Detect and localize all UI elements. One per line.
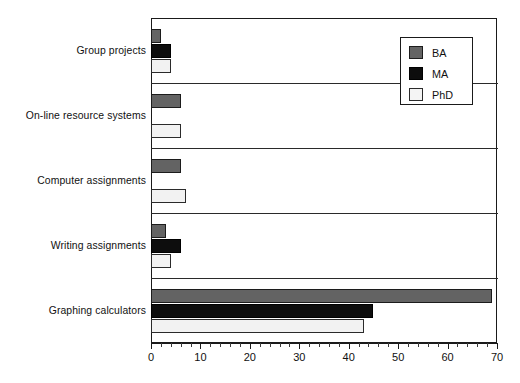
- bar-phd-1: [151, 124, 181, 138]
- x-tick-minor: [329, 343, 330, 347]
- category-label: Computer assignments: [0, 175, 146, 186]
- category-label: Graphing calculators: [0, 305, 146, 316]
- x-tick-minor: [438, 343, 439, 347]
- x-tick-major: [398, 343, 399, 349]
- x-tick-minor: [457, 343, 458, 347]
- x-tick-minor: [418, 343, 419, 347]
- x-tick-minor: [270, 343, 271, 347]
- x-tick-minor: [319, 343, 320, 347]
- bar-ba-3: [151, 224, 166, 238]
- bar-chart: Group projectsOn-line resource systemsCo…: [0, 0, 520, 383]
- legend-swatch-icon: [409, 46, 423, 59]
- legend-entry-ba: BA: [409, 46, 446, 59]
- bar-ma-4: [151, 304, 373, 318]
- legend-entry-ma: MA: [409, 67, 448, 80]
- x-tick-major: [250, 343, 251, 349]
- x-tick-major: [151, 343, 152, 349]
- x-tick-minor: [220, 343, 221, 347]
- x-tick-minor: [359, 343, 360, 347]
- x-tick-label: 10: [194, 351, 206, 363]
- legend-swatch-icon: [409, 88, 423, 101]
- bar-phd-2: [151, 189, 186, 203]
- x-tick-minor: [171, 343, 172, 347]
- x-tick-minor: [467, 343, 468, 347]
- x-tick-minor: [309, 343, 310, 347]
- x-tick-label: 20: [244, 351, 256, 363]
- x-tick-label: 50: [392, 351, 404, 363]
- legend-label: MA: [432, 68, 448, 80]
- bar-phd-0: [151, 59, 171, 73]
- x-tick-minor: [181, 343, 182, 347]
- x-tick-major: [299, 343, 300, 349]
- bar-ma-3: [151, 239, 181, 253]
- x-tick-minor: [368, 343, 369, 347]
- x-tick-minor: [428, 343, 429, 347]
- x-tick-minor: [230, 343, 231, 347]
- x-tick-minor: [477, 343, 478, 347]
- x-tick-minor: [378, 343, 379, 347]
- legend-label: PhD: [432, 89, 453, 101]
- x-tick-label: 0: [148, 351, 154, 363]
- x-tick-minor: [161, 343, 162, 347]
- x-tick-minor: [289, 343, 290, 347]
- x-tick-major: [349, 343, 350, 349]
- x-tick-minor: [487, 343, 488, 347]
- bar-ba-1: [151, 94, 181, 108]
- x-tick-minor: [408, 343, 409, 347]
- x-tick-minor: [280, 343, 281, 347]
- bar-phd-3: [151, 254, 171, 268]
- category-label: Writing assignments: [0, 240, 146, 251]
- x-tick-major: [497, 343, 498, 349]
- category-label: On-line resource systems: [0, 110, 146, 121]
- x-tick-minor: [240, 343, 241, 347]
- legend-swatch-icon: [409, 67, 423, 80]
- x-tick-minor: [210, 343, 211, 347]
- x-axis-line: [151, 343, 498, 344]
- x-tick-major: [448, 343, 449, 349]
- bar-ma-0: [151, 44, 171, 58]
- x-tick-minor: [388, 343, 389, 347]
- x-tick-label: 30: [293, 351, 305, 363]
- category-label: Group projects: [0, 45, 146, 56]
- bar-ba-4: [151, 289, 492, 303]
- x-tick-minor: [339, 343, 340, 347]
- legend-label: BA: [432, 47, 446, 59]
- legend-entry-phd: PhD: [409, 88, 453, 101]
- bar-phd-4: [151, 319, 364, 333]
- x-tick-label: 70: [491, 351, 503, 363]
- x-tick-minor: [260, 343, 261, 347]
- x-tick-major: [200, 343, 201, 349]
- category-axis-labels: Group projectsOn-line resource systemsCo…: [0, 0, 146, 325]
- bar-ba-2: [151, 159, 181, 173]
- x-tick-minor: [191, 343, 192, 347]
- bar-ba-0: [151, 29, 161, 43]
- x-tick-label: 60: [441, 351, 453, 363]
- x-tick-label: 40: [343, 351, 355, 363]
- legend: BAMAPhD: [400, 37, 473, 105]
